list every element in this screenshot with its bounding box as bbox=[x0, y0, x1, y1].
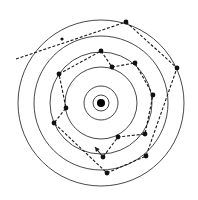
walk-node bbox=[144, 154, 149, 159]
walk-node bbox=[124, 20, 129, 25]
entry-node bbox=[60, 37, 63, 40]
walk-node bbox=[175, 66, 180, 71]
walk-polyline bbox=[54, 22, 177, 173]
entry-segment bbox=[16, 22, 126, 59]
walk-node bbox=[57, 72, 62, 77]
arrow-icon bbox=[95, 147, 103, 157]
walk-node bbox=[143, 132, 148, 137]
walk-node bbox=[52, 121, 57, 126]
walk-node bbox=[99, 49, 104, 54]
walk-node bbox=[151, 93, 156, 98]
walk-node bbox=[64, 106, 69, 111]
walk-node bbox=[105, 171, 110, 176]
walk-node bbox=[110, 65, 115, 70]
walk-node bbox=[133, 61, 138, 66]
nucleus-dot bbox=[97, 99, 105, 107]
walk-node bbox=[116, 135, 121, 140]
concentric-ring-diagram bbox=[0, 0, 198, 200]
